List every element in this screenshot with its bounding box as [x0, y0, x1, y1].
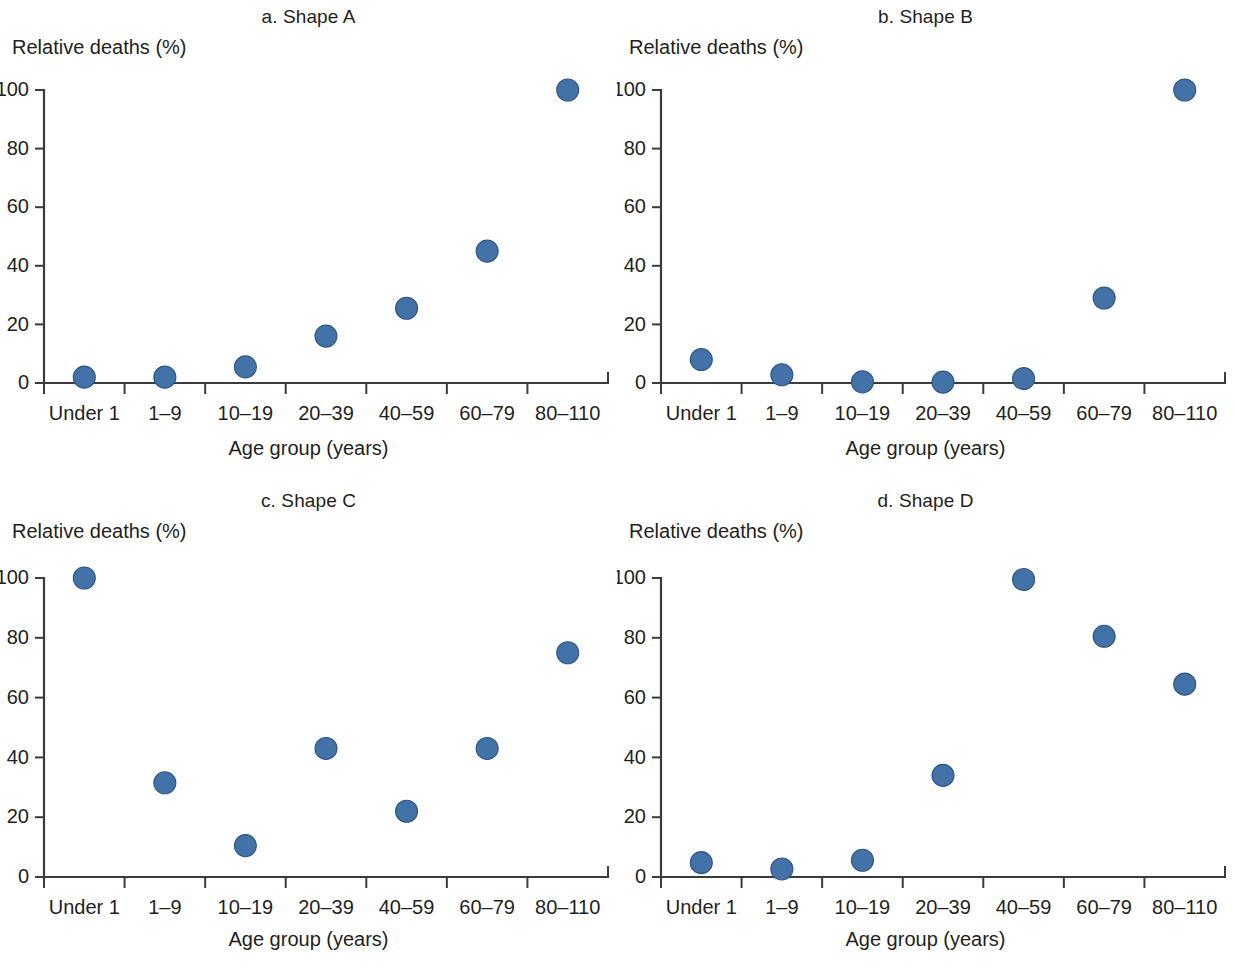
data-point-marker — [476, 737, 498, 759]
x-tick-label: Under 1 — [666, 896, 737, 918]
x-tick-label: 60–79 — [459, 896, 515, 918]
y-tick-label: 40 — [624, 254, 646, 276]
data-point-marker — [73, 567, 95, 589]
x-tick-label: 1–9 — [765, 896, 798, 918]
data-point-marker — [690, 852, 712, 874]
y-tick-label: 100 — [0, 78, 29, 100]
x-tick-label: 20–39 — [298, 896, 354, 918]
x-tick-label: Under 1 — [666, 402, 737, 424]
panel-b-x-axis-label: Age group (years) — [617, 437, 1234, 460]
data-point-marker — [1013, 568, 1035, 590]
x-tick-label: 40–59 — [379, 402, 435, 424]
data-point-marker — [154, 366, 176, 388]
data-point-marker — [154, 772, 176, 794]
x-tick-label: 1–9 — [765, 402, 798, 424]
data-point-marker — [557, 642, 579, 664]
y-tick-label: 80 — [7, 137, 29, 159]
data-point-marker — [396, 800, 418, 822]
data-point-marker — [690, 349, 712, 371]
x-tick-label: 40–59 — [996, 402, 1052, 424]
data-point-marker — [73, 366, 95, 388]
x-tick-label: 10–19 — [835, 896, 891, 918]
x-tick-label: 10–19 — [218, 896, 274, 918]
data-point-marker — [1174, 673, 1196, 695]
y-tick-label: 20 — [624, 313, 646, 335]
data-point-marker — [851, 371, 873, 393]
y-tick-label: 20 — [7, 313, 29, 335]
y-tick-label: 0 — [18, 865, 29, 887]
x-tick-label: 60–79 — [1076, 402, 1132, 424]
y-tick-label: 100 — [617, 566, 646, 588]
y-tick-label: 20 — [624, 805, 646, 827]
data-point-marker — [234, 356, 256, 378]
data-point-marker — [476, 240, 498, 262]
panel-shape-c: c. Shape C Relative deaths (%) 020406080… — [0, 484, 617, 968]
y-tick-label: 80 — [624, 137, 646, 159]
x-tick-label: 80–110 — [535, 896, 600, 918]
x-tick-label: 40–59 — [379, 896, 435, 918]
data-point-marker — [557, 79, 579, 101]
y-tick-label: 20 — [7, 805, 29, 827]
x-tick-label: 80–110 — [535, 402, 600, 424]
y-tick-label: 0 — [635, 371, 646, 393]
panel-c-plot-area: 020406080100Under 11–910–1920–3940–5960–… — [0, 484, 617, 968]
panel-b-plot-area: 020406080100Under 11–910–1920–3940–5960–… — [617, 0, 1234, 484]
y-tick-label: 60 — [624, 686, 646, 708]
y-tick-label: 80 — [624, 626, 646, 648]
panel-c-x-axis-label: Age group (years) — [0, 928, 617, 951]
x-tick-label: 10–19 — [835, 402, 891, 424]
x-tick-label: 60–79 — [459, 402, 515, 424]
panel-d-plot-area: 020406080100Under 11–910–1920–3940–5960–… — [617, 484, 1234, 968]
x-tick-label: 1–9 — [148, 896, 181, 918]
panel-shape-d: d. Shape D Relative deaths (%) 020406080… — [617, 484, 1234, 968]
data-point-marker — [315, 737, 337, 759]
x-tick-label: 60–79 — [1076, 896, 1132, 918]
panel-shape-b: b. Shape B Relative deaths (%) 020406080… — [617, 0, 1234, 484]
y-tick-label: 0 — [635, 865, 646, 887]
data-point-marker — [1093, 287, 1115, 309]
panel-a-x-axis-label: Age group (years) — [0, 437, 617, 460]
data-point-marker — [315, 325, 337, 347]
data-point-marker — [932, 371, 954, 393]
x-tick-label: 20–39 — [915, 896, 971, 918]
data-point-marker — [396, 297, 418, 319]
data-point-marker — [851, 849, 873, 871]
x-tick-label: Under 1 — [49, 402, 120, 424]
x-tick-label: 20–39 — [915, 402, 971, 424]
data-point-marker — [932, 764, 954, 786]
panel-d-x-axis-label: Age group (years) — [617, 928, 1234, 951]
data-point-marker — [771, 364, 793, 386]
x-tick-label: 1–9 — [148, 402, 181, 424]
x-tick-label: 80–110 — [1152, 402, 1217, 424]
x-tick-label: 20–39 — [298, 402, 354, 424]
data-point-marker — [1174, 79, 1196, 101]
y-tick-label: 0 — [18, 371, 29, 393]
y-tick-label: 40 — [7, 254, 29, 276]
y-tick-label: 80 — [7, 626, 29, 648]
y-tick-label: 100 — [0, 566, 29, 588]
data-point-marker — [771, 858, 793, 880]
data-point-marker — [1013, 368, 1035, 390]
y-tick-label: 60 — [7, 195, 29, 217]
data-point-marker — [1093, 625, 1115, 647]
y-tick-label: 100 — [617, 78, 646, 100]
y-tick-label: 40 — [7, 746, 29, 768]
x-tick-label: 10–19 — [218, 402, 274, 424]
y-tick-label: 40 — [624, 746, 646, 768]
panel-shape-a: a. Shape A Relative deaths (%) 020406080… — [0, 0, 617, 484]
y-tick-label: 60 — [7, 686, 29, 708]
y-tick-label: 60 — [624, 195, 646, 217]
x-tick-label: Under 1 — [49, 896, 120, 918]
x-tick-label: 80–110 — [1152, 896, 1217, 918]
data-point-marker — [234, 835, 256, 857]
figure-panel-grid: a. Shape A Relative deaths (%) 020406080… — [0, 0, 1234, 968]
panel-a-plot-area: 020406080100Under 11–910–1920–3940–5960–… — [0, 0, 617, 484]
x-tick-label: 40–59 — [996, 896, 1052, 918]
